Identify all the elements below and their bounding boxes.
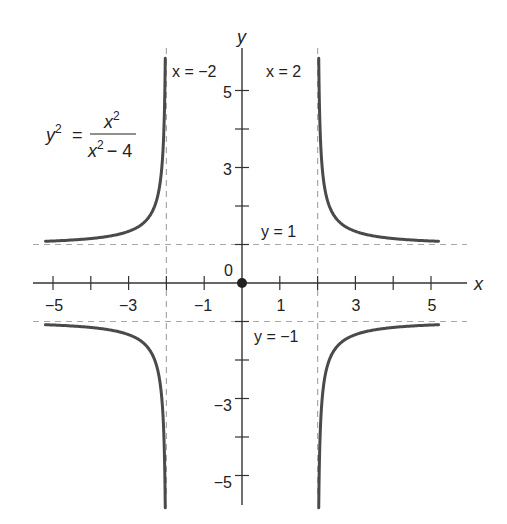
y-tick-label: −3 <box>214 397 232 414</box>
curve-branch <box>319 325 439 508</box>
curve-branch <box>45 58 165 241</box>
asymptote-label-x-2: x = 2 <box>266 63 301 80</box>
y-axis-label: y <box>235 27 247 47</box>
asymptote-label-y-neg1: y = −1 <box>254 328 299 345</box>
equation-denominator: x2− 4 <box>87 138 132 161</box>
x-tick-label: −3 <box>119 297 137 314</box>
equation-lhs: y2 <box>44 122 62 145</box>
x-tick-label: 1 <box>277 297 286 314</box>
x-tick-label: −1 <box>194 297 212 314</box>
hyperbola-plot: −5 −3 −1 1 3 5 5 3 −3 −5 0 x y x = −2 x … <box>0 0 507 524</box>
y-tick-labels: 5 3 −3 −5 <box>214 84 232 491</box>
curve-branch <box>319 58 439 241</box>
origin-point <box>237 278 247 288</box>
asymptote-label-y-1: y = 1 <box>261 223 296 240</box>
y-tick-label: 5 <box>223 84 232 101</box>
curve-branch <box>45 325 165 508</box>
y-tick-label: −5 <box>214 474 232 491</box>
x-tick-label: 5 <box>428 297 437 314</box>
asymptote-label-x-neg2: x = −2 <box>172 63 217 80</box>
asymptote-lines <box>33 48 467 498</box>
equation-equals: = <box>72 125 83 145</box>
x-tick-labels: −5 −3 −1 1 3 5 <box>45 297 437 314</box>
equation-label: y2 = x2 x2− 4 <box>44 109 136 161</box>
axes <box>33 48 467 505</box>
x-axis-label: x <box>473 274 484 294</box>
x-tick-label: −5 <box>45 297 63 314</box>
y-tick-label: 3 <box>223 161 232 178</box>
equation-numerator: x2 <box>103 109 120 132</box>
origin-label: 0 <box>224 262 233 279</box>
x-tick-label: 3 <box>352 297 361 314</box>
